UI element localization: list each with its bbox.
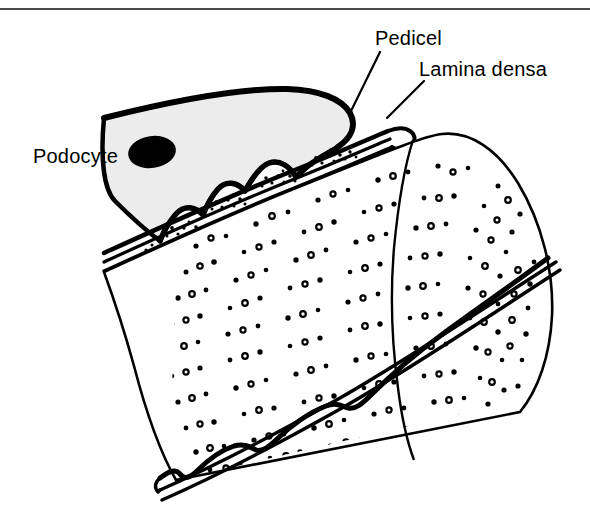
endothelium-left-cap [156,478,160,492]
figure-root: Pedicel Lamina densa Podocyte [0,0,590,526]
label-podocyte: Podocyte [33,145,118,168]
label-lamina-densa: Lamina densa [419,58,547,81]
leader-line-lamina-densa [387,81,424,118]
label-pedicel: Pedicel [375,27,442,50]
leader-line-pedicel [351,52,380,111]
leader-lines [351,52,424,118]
